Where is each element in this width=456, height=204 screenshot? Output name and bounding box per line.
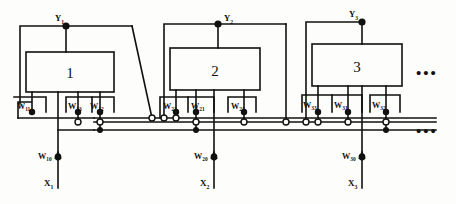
cross-w23-mid (241, 119, 247, 125)
label-w13-sub: 13 (76, 106, 82, 112)
input-arrows (54, 150, 365, 159)
crossover-circles (75, 115, 389, 125)
label-w13: W13 (68, 102, 82, 112)
block-3-label: 3 (353, 59, 361, 75)
label-w32-sub: 32 (380, 105, 386, 111)
label-x2: X2 (200, 178, 210, 190)
arrow-x2 (210, 150, 217, 159)
cross-w22-bus (173, 115, 179, 121)
label-y1: Y1 (55, 13, 64, 25)
input-labels: X1 X2 X3 (44, 178, 358, 190)
cross-b1-right (149, 115, 155, 121)
label-w23: W23 (231, 102, 245, 112)
label-x1: X1 (44, 178, 54, 190)
label-w31-sub: 31 (342, 105, 348, 111)
label-y1-sub: 1 (61, 19, 64, 25)
cross-w32-mid (383, 119, 389, 125)
label-w12-sub: 12 (98, 106, 104, 112)
label-w31: W31 (334, 101, 348, 111)
label-w20: W20 (194, 152, 208, 162)
node-w32-bus (383, 127, 389, 133)
label-w22-sub: 22 (171, 106, 177, 112)
block-numerals: 1 2 3 (66, 59, 361, 81)
label-y2-sub: 2 (230, 19, 233, 25)
block-1-label: 1 (66, 65, 74, 81)
cross-b3-left (303, 119, 309, 125)
block-1-feedback-right (132, 26, 152, 118)
circuit-svg: Y1 Y2 Y3 1 2 3 W11 W13 W12 W22 W21 W23 W… (0, 0, 456, 204)
block-2-label: 2 (211, 63, 219, 79)
cross-b2-left (161, 115, 167, 121)
node-y3 (358, 18, 365, 25)
label-w23-sub: 23 (239, 106, 245, 112)
bias-labels: W10 W20 W30 (38, 152, 356, 162)
node-w12-bus (97, 127, 103, 133)
label-w22: W22 (163, 102, 177, 112)
cross-w13-bus (75, 119, 81, 125)
cross-w33-mid (315, 119, 321, 125)
ellipsis-top: ••• (416, 65, 438, 81)
weight-labels: W11 W13 W12 W22 W21 W23 W33 W31 W32 (17, 101, 386, 112)
label-w21: W21 (191, 102, 205, 112)
arrow-x1 (54, 150, 61, 159)
label-y2: Y2 (224, 13, 233, 25)
label-x1-sub: 1 (51, 184, 54, 190)
label-x2-sub: 2 (207, 184, 210, 190)
label-w30-sub: 30 (350, 156, 356, 162)
label-w32: W32 (372, 101, 386, 111)
label-w10-sub: 10 (46, 156, 52, 162)
label-w10: W10 (38, 152, 52, 162)
label-w11-sub: 11 (25, 106, 30, 112)
label-w30: W30 (342, 152, 356, 162)
diagram-canvas: Y1 Y2 Y3 1 2 3 W11 W13 W12 W22 W21 W23 W… (0, 0, 456, 204)
node-w21-bus (193, 127, 199, 133)
label-w33: W33 (303, 101, 317, 111)
label-x3-sub: 3 (355, 184, 358, 190)
label-w12: W12 (90, 102, 104, 112)
arrow-x3 (358, 150, 365, 159)
ellipsis-bus: ••• (416, 123, 438, 139)
cross-w31-bus (345, 119, 351, 125)
label-w21-sub: 21 (199, 106, 205, 112)
node-y2 (214, 20, 221, 27)
label-x3: X3 (348, 178, 358, 190)
label-y3-sub: 3 (355, 15, 358, 21)
label-w33-sub: 33 (311, 105, 317, 111)
label-w11: W11 (17, 102, 31, 112)
cross-b2-right (283, 119, 289, 125)
label-y3: Y3 (349, 9, 358, 21)
cross-w12-mid (97, 119, 103, 125)
label-w20-sub: 20 (202, 156, 208, 162)
cross-w21-mid (193, 119, 199, 125)
